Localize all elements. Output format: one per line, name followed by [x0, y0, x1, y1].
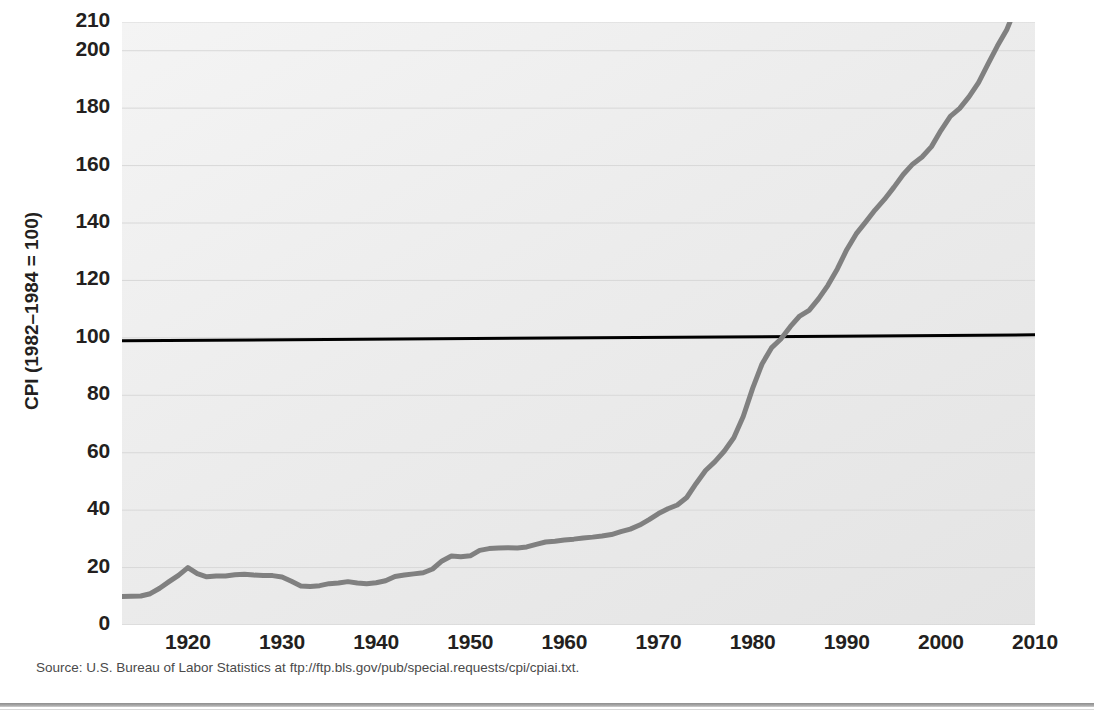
- y-tick-label-100: 100: [32, 324, 110, 348]
- x-tick-label-1960: 1960: [519, 630, 609, 654]
- x-tick-label-1950: 1950: [425, 630, 515, 654]
- y-tick-label-140: 140: [32, 209, 110, 233]
- plot-area: [122, 22, 1035, 625]
- y-tick-label-0: 0: [32, 611, 110, 635]
- gridlines-group: [122, 22, 1035, 625]
- x-tick-label-1970: 1970: [614, 630, 704, 654]
- x-tick-label-2000: 2000: [896, 630, 986, 654]
- bottom-divider-rule-secondary: [0, 709, 1094, 710]
- y-tick-label-80: 80: [32, 381, 110, 405]
- y-tick-label-20: 20: [32, 554, 110, 578]
- y-tick-label-160: 160: [32, 152, 110, 176]
- y-tick-label-200: 200: [32, 37, 110, 61]
- y-tick-label-60: 60: [32, 439, 110, 463]
- x-tick-label-1940: 1940: [331, 630, 421, 654]
- cpi-chart-figure: 020406080100120140160180200210 192019301…: [0, 0, 1094, 719]
- y-axis-title: CPI (1982–1984 = 100): [21, 191, 43, 431]
- x-tick-label-1990: 1990: [802, 630, 892, 654]
- x-tick-label-2010: 2010: [990, 630, 1080, 654]
- y-tick-label-180: 180: [32, 94, 110, 118]
- x-tick-label-1930: 1930: [237, 630, 327, 654]
- y-tick-label-40: 40: [32, 496, 110, 520]
- y-tick-label-120: 120: [32, 266, 110, 290]
- bottom-divider-rule: [0, 703, 1094, 707]
- x-tick-label-1980: 1980: [708, 630, 798, 654]
- y-tick-label-210: 210: [32, 8, 110, 32]
- x-tick-label-1920: 1920: [143, 630, 233, 654]
- source-note: Source: U.S. Bureau of Labor Statistics …: [36, 660, 579, 675]
- plot-svg: [122, 22, 1035, 625]
